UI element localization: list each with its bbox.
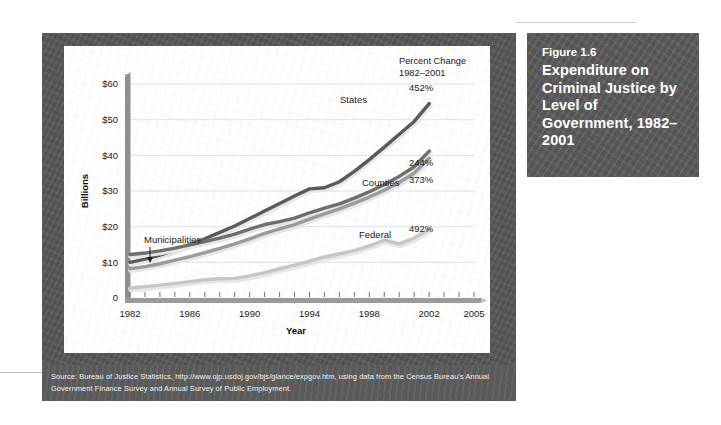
series-label-municipalities: Municipalities <box>144 234 201 245</box>
line-chart: 0$10$20$30$40$50$60198219861990199419982… <box>64 46 490 353</box>
x-tick-label: 1994 <box>299 308 320 319</box>
x-axis-bar <box>125 298 481 303</box>
y-tick-label: $40 <box>102 150 118 161</box>
y-tick-label: $10 <box>102 257 118 268</box>
percent-change-municipalities: 244% <box>409 157 434 168</box>
x-tick-label: 2002 <box>419 308 440 319</box>
figure-title-block: Figure 1.6 Expenditure on Criminal Justi… <box>527 33 699 177</box>
figure-frame: 0$10$20$30$40$50$60198219861990199419982… <box>42 33 516 378</box>
source-texture <box>42 365 516 401</box>
x-tick-label: 2005 <box>463 308 484 319</box>
percent-change-federal: 492% <box>409 223 434 234</box>
x-axis-title: Year <box>286 325 306 336</box>
y-tick-label: $20 <box>102 221 118 232</box>
y-axis-title: Billions <box>79 174 90 208</box>
series-label-states: States <box>340 94 367 105</box>
percent-change-states: 452% <box>409 82 434 93</box>
source-text: Source: Bureau of Justice Statistics, ht… <box>51 372 489 393</box>
x-tick-label: 1986 <box>179 308 200 319</box>
x-tick-label: 1998 <box>359 308 380 319</box>
figure-number: Figure 1.6 <box>542 45 689 60</box>
x-axis-cap <box>481 298 488 303</box>
x-tick-label: 1990 <box>239 308 260 319</box>
y-tick-label: $60 <box>102 78 118 89</box>
percent-change-header-line2: 1982–2001 <box>399 68 446 78</box>
source-note: Source: Bureau of Justice Statistics, ht… <box>42 365 516 401</box>
plot-card: 0$10$20$30$40$50$60198219861990199419982… <box>64 46 490 353</box>
page-rule-left <box>0 372 43 373</box>
y-tick-label: 0 <box>113 292 118 303</box>
percent-change-counties: 373% <box>409 174 434 185</box>
percent-change-header-line1: Percent Change <box>399 56 466 66</box>
figure-title: Expenditure on Criminal Justice by Level… <box>542 62 689 150</box>
series-label-counties: Counties <box>362 177 400 188</box>
x-tick-label: 1982 <box>119 308 140 319</box>
y-tick-label: $30 <box>102 185 118 196</box>
figure-page: 0$10$20$30$40$50$60198219861990199419982… <box>0 0 721 425</box>
y-tick-label: $50 <box>102 114 118 125</box>
page-rule-right <box>516 22 636 23</box>
series-label-federal: Federal <box>359 229 391 240</box>
